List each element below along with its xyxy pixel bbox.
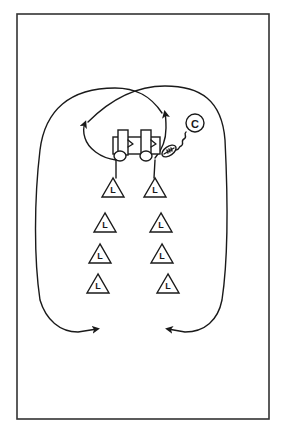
player-label: L (159, 251, 165, 261)
field-frame (17, 14, 269, 419)
coach-label: C (191, 118, 199, 130)
player-label: L (102, 220, 108, 230)
player-label: L (110, 185, 116, 195)
player-label: L (165, 281, 171, 291)
player-label: L (158, 220, 164, 230)
player-label: L (152, 185, 158, 195)
coach-circle-icon: C (186, 114, 204, 132)
player-label: L (95, 281, 101, 291)
player-label: L (97, 251, 103, 261)
right-lead-line (154, 160, 155, 178)
drill-diagram: C L L L L L L L L (0, 0, 287, 432)
player-head-icon (140, 151, 152, 161)
